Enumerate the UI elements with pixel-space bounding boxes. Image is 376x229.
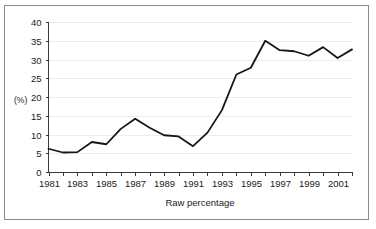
chart-figure: 0510152025303540 19811983198519871989199… xyxy=(0,0,376,229)
y-axis xyxy=(46,22,49,173)
y-tick-label: 20 xyxy=(31,92,42,103)
y-tick-label: 40 xyxy=(31,17,42,28)
x-axis-title: Raw percentage xyxy=(165,197,234,208)
line-chart: 0510152025303540 19811983198519871989199… xyxy=(0,0,376,229)
gridlines xyxy=(49,23,353,154)
y-tick-label: 10 xyxy=(31,130,42,141)
x-axis xyxy=(49,172,353,176)
y-tick-label: 25 xyxy=(31,73,42,84)
x-tick-label: 1987 xyxy=(125,178,146,189)
y-tick-label: 15 xyxy=(31,111,42,122)
x-tick-label: 1991 xyxy=(183,178,204,189)
x-tick-label: 1995 xyxy=(241,178,262,189)
x-tick-label: 1993 xyxy=(212,178,233,189)
x-tick-label: 1985 xyxy=(96,178,117,189)
y-tick-label: 35 xyxy=(31,36,42,47)
x-tick-label: 1997 xyxy=(270,178,291,189)
x-tick-label: 1989 xyxy=(154,178,175,189)
y-tick-label: 30 xyxy=(31,55,42,66)
y-tick-label: 5 xyxy=(36,148,41,159)
y-tick-label: 0 xyxy=(36,167,41,178)
x-tick-label: 1983 xyxy=(67,178,88,189)
x-tick-label: 1981 xyxy=(39,178,60,189)
x-tick-label: 1999 xyxy=(299,178,320,189)
x-tick-labels: 1981198319851987198919911993199519971999… xyxy=(39,178,349,189)
y-tick-labels: 0510152025303540 xyxy=(31,17,42,178)
y-axis-title: (%) xyxy=(14,95,27,105)
x-tick-label: 2001 xyxy=(328,178,349,189)
